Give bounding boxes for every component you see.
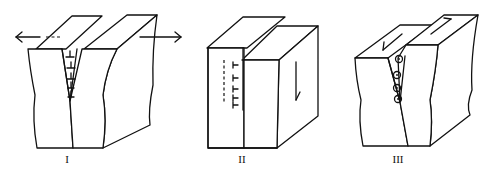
panel-mode-2: II <box>207 17 318 165</box>
panel-mode-3: III <box>355 15 478 165</box>
panel-label-3: III <box>393 153 404 165</box>
panel-mode-1: I <box>16 15 181 165</box>
fracture-modes-diagram: I II <box>0 0 492 170</box>
panel-label-1: I <box>65 153 69 165</box>
block-2-right-front <box>242 60 279 148</box>
block-1-left-front <box>28 49 73 148</box>
panel-label-2: II <box>238 153 246 165</box>
